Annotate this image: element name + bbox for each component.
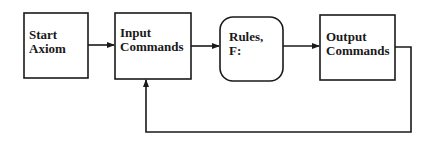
node-start-axiom: Start Axiom [24, 13, 88, 78]
flow-diagram: Start Axiom Input Commands Rules, F: Out… [0, 0, 432, 142]
node-rules: Rules, F: [220, 17, 283, 81]
node-input-line2: Commands [120, 39, 184, 54]
arrow-feedback-output-to-input [146, 47, 411, 132]
node-input-line1: Input [120, 25, 152, 40]
node-rules-line2: F: [229, 43, 241, 58]
node-start-line1: Start [29, 27, 58, 42]
node-output-line1: Output [326, 29, 367, 44]
node-rules-line1: Rules, [229, 29, 263, 44]
node-input-commands: Input Commands [115, 13, 191, 79]
node-output-commands: Output Commands [320, 15, 395, 80]
node-start-line2: Axiom [29, 41, 66, 56]
node-output-line2: Commands [326, 43, 390, 58]
